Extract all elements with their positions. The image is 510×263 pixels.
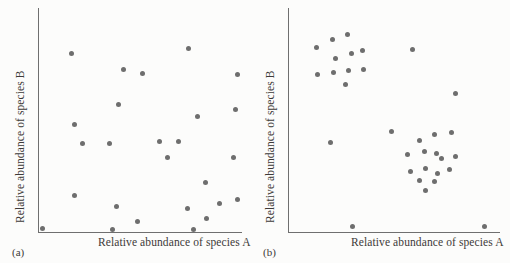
data-point xyxy=(423,188,428,193)
data-point xyxy=(315,72,320,77)
data-point xyxy=(350,224,355,229)
data-point xyxy=(333,56,338,61)
data-point xyxy=(447,167,452,172)
data-point xyxy=(423,166,428,171)
data-point xyxy=(69,51,74,56)
data-point xyxy=(191,227,196,232)
data-point xyxy=(235,197,240,202)
panel-b: Relative abundance of species B Relative… xyxy=(255,0,510,263)
data-point xyxy=(165,155,170,160)
data-point xyxy=(361,67,366,72)
panel-b-y-axis-label: Relative abundance of species B xyxy=(264,70,276,223)
panel-a: Relative abundance of species B Relative… xyxy=(0,0,255,263)
panel-a-caption: (a) xyxy=(12,246,24,258)
panel-a-x-axis xyxy=(38,232,242,233)
data-point xyxy=(107,141,112,146)
data-point xyxy=(331,70,336,75)
data-point xyxy=(110,227,115,232)
data-point xyxy=(186,46,191,51)
data-point xyxy=(176,139,181,144)
data-point xyxy=(72,122,77,127)
data-point xyxy=(80,141,85,146)
panel-a-plot-area xyxy=(39,8,242,232)
data-point xyxy=(185,206,190,211)
data-point xyxy=(40,226,45,231)
data-point xyxy=(203,180,208,185)
panel-b-x-axis-label: Relative abundance of species A xyxy=(351,236,504,248)
data-point xyxy=(116,102,121,107)
data-point xyxy=(389,129,394,134)
data-point xyxy=(231,155,236,160)
data-point xyxy=(432,179,437,184)
data-point xyxy=(328,140,333,145)
data-point xyxy=(405,152,410,157)
figure-two-scatter-panels: Relative abundance of species B Relative… xyxy=(0,0,510,263)
data-point xyxy=(449,130,454,135)
data-point xyxy=(417,178,422,183)
data-point xyxy=(217,201,222,206)
panel-a-y-axis-label: Relative abundance of species B xyxy=(14,70,26,223)
data-point xyxy=(343,82,348,87)
data-point xyxy=(157,139,162,144)
data-point xyxy=(345,32,350,37)
panel-b-plot-area xyxy=(289,8,500,232)
data-point xyxy=(195,114,200,119)
data-point xyxy=(408,169,413,174)
data-point xyxy=(349,51,354,56)
panel-b-x-axis xyxy=(288,232,500,233)
data-point xyxy=(346,68,351,73)
data-point xyxy=(135,219,140,224)
data-point xyxy=(435,171,440,176)
data-point xyxy=(439,156,444,161)
panel-b-caption: (b) xyxy=(263,246,276,258)
data-point xyxy=(432,132,437,137)
data-point xyxy=(204,216,209,221)
data-point xyxy=(434,151,439,156)
data-point xyxy=(233,107,238,112)
data-point xyxy=(410,47,415,52)
data-point xyxy=(453,91,458,96)
data-point xyxy=(482,224,487,229)
panel-a-x-axis-label: Relative abundance of species A xyxy=(98,236,251,248)
data-point xyxy=(453,154,458,159)
data-point xyxy=(235,72,240,77)
data-point xyxy=(314,45,319,50)
data-point xyxy=(330,37,335,42)
data-point xyxy=(140,71,145,76)
data-point xyxy=(121,67,126,72)
data-point xyxy=(360,48,365,53)
data-point xyxy=(422,149,427,154)
data-point xyxy=(417,138,422,143)
data-point xyxy=(114,204,119,209)
data-point xyxy=(72,193,77,198)
